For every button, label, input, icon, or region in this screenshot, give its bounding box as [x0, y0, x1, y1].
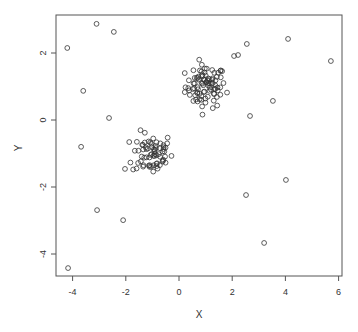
data-point: [94, 21, 99, 26]
data-point: [121, 218, 126, 223]
y-tick-label: -2: [38, 183, 48, 191]
y-axis-title: Y: [13, 144, 24, 151]
x-tick-label: 0: [176, 287, 181, 297]
data-points: [65, 21, 333, 270]
data-point: [165, 135, 170, 140]
data-point: [65, 46, 70, 51]
data-point: [191, 68, 196, 73]
y-tick-label: -4: [38, 250, 48, 258]
data-point: [123, 167, 128, 172]
data-point: [244, 42, 249, 47]
data-point: [182, 71, 187, 76]
data-point: [142, 130, 147, 135]
data-point: [136, 148, 141, 153]
data-point: [328, 59, 333, 64]
data-point: [131, 167, 136, 172]
data-point: [134, 166, 139, 171]
data-point: [111, 29, 116, 34]
data-point: [151, 169, 156, 174]
x-tick-label: 4: [283, 287, 288, 297]
data-point: [134, 139, 139, 144]
data-point: [95, 208, 100, 213]
x-axis: -4-20246: [69, 276, 342, 297]
data-point: [79, 144, 84, 149]
data-point: [211, 98, 216, 103]
data-point: [66, 266, 71, 271]
data-point: [244, 193, 249, 198]
data-point: [210, 106, 215, 111]
data-point: [169, 154, 174, 159]
data-point: [215, 103, 220, 108]
data-point: [107, 116, 112, 121]
data-point: [262, 241, 267, 246]
y-axis: -4-202: [38, 50, 56, 258]
data-point: [221, 81, 226, 86]
data-point: [198, 68, 203, 73]
x-tick-label: -2: [122, 287, 130, 297]
scatter-plot: -4-20246 -4-202 X Y: [0, 0, 358, 332]
data-point: [197, 57, 202, 62]
x-tick-label: 2: [230, 287, 235, 297]
x-tick-label: -4: [69, 287, 77, 297]
y-tick-label: 2: [38, 50, 48, 55]
data-point: [187, 93, 192, 98]
data-point: [248, 114, 253, 119]
data-point: [127, 140, 132, 145]
data-point: [284, 178, 289, 183]
data-point: [128, 160, 133, 165]
data-point: [286, 37, 291, 42]
data-point: [148, 140, 153, 145]
y-tick-label: 0: [38, 117, 48, 122]
x-tick-label: 6: [336, 287, 341, 297]
data-point: [81, 88, 86, 93]
data-point: [225, 90, 230, 95]
data-point: [186, 78, 191, 83]
data-point: [200, 112, 205, 117]
x-axis-title: X: [196, 309, 203, 320]
data-point: [270, 99, 275, 104]
data-point: [138, 128, 143, 133]
plot-frame: [56, 15, 342, 276]
